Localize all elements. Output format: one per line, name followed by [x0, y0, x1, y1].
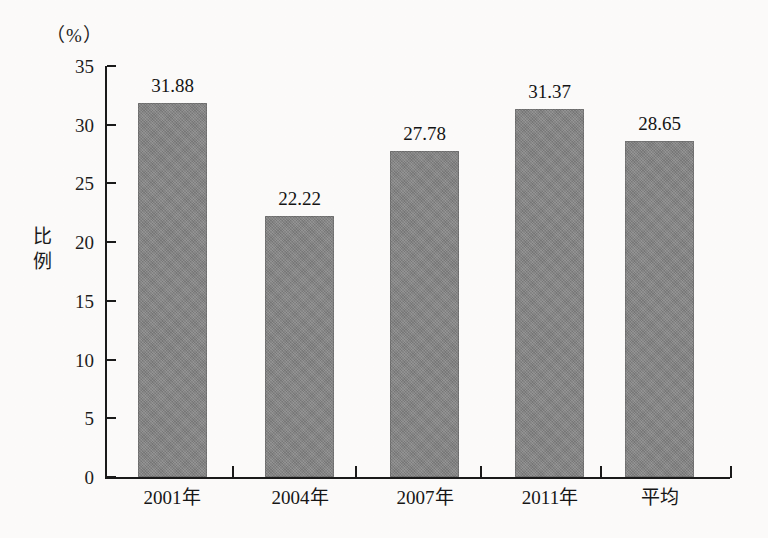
x-axis-tick: [600, 466, 602, 478]
y-axis-tick: [107, 241, 116, 243]
y-axis-tick-label: 20: [48, 233, 94, 252]
category-label-3: 2007年: [365, 486, 485, 510]
category-label-5: 平均: [600, 486, 720, 509]
category-year-number: 2001: [144, 487, 182, 508]
category-year-suffix: 年: [559, 486, 578, 508]
category-label-1: 2001年: [112, 486, 232, 510]
bar-chart-figure: （%） 比 例 05101520253035 31.8822.2227.7831…: [0, 0, 768, 538]
x-axis-tick: [232, 466, 234, 478]
y-axis-tick-label: 35: [48, 57, 94, 76]
y-axis-tick-label: 10: [48, 351, 94, 370]
y-axis-title-char-2: 例: [30, 249, 54, 274]
category-year-suffix: 年: [435, 486, 454, 508]
bar-value-label: 28.65: [615, 114, 705, 133]
x-axis-line: [105, 477, 730, 479]
y-axis-tick: [107, 300, 116, 302]
category-year-number: 2004: [272, 487, 310, 508]
bar-5: [625, 141, 694, 477]
x-axis-tick: [480, 466, 482, 478]
y-axis-tick-label: 30: [48, 116, 94, 135]
y-axis-tick-label: 0: [48, 468, 94, 487]
bar-4: [515, 109, 584, 477]
category-label-2: 2004年: [240, 486, 360, 510]
y-axis-tick-label: 15: [48, 292, 94, 311]
bar-1: [138, 103, 207, 477]
category-label-4: 2011年: [490, 486, 610, 510]
y-axis-tick: [107, 476, 116, 478]
y-axis-tick: [107, 417, 116, 419]
bar-3: [390, 151, 459, 477]
category-year-number: 2011: [522, 487, 559, 508]
bar-2: [265, 216, 334, 477]
category-year-number: 2007: [397, 487, 435, 508]
bar-value-label: 22.22: [255, 189, 345, 208]
bar-value-label: 31.37: [505, 82, 595, 101]
bar-value-label: 31.88: [128, 76, 218, 95]
y-axis-tick: [107, 182, 116, 184]
y-axis-unit-label: （%）: [46, 20, 103, 47]
category-year-suffix: 年: [310, 486, 329, 508]
y-axis-tick: [107, 65, 116, 67]
category-year-suffix: 年: [182, 486, 201, 508]
x-axis-tick: [730, 466, 732, 478]
x-axis-tick: [355, 466, 357, 478]
y-axis-tick-label: 5: [48, 409, 94, 428]
y-axis-tick-label: 25: [48, 174, 94, 193]
y-axis-tick: [107, 359, 116, 361]
bar-value-label: 27.78: [380, 124, 470, 143]
y-axis-tick: [107, 124, 116, 126]
